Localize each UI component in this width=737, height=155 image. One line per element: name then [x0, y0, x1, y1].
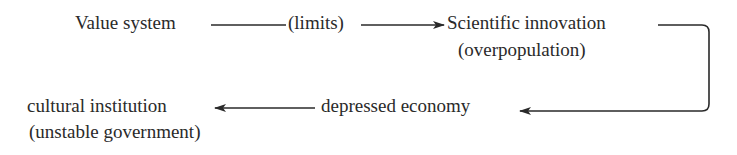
diagram-connectors	[0, 0, 737, 155]
edge-scientific-innovation-to-depressed-economy	[520, 25, 709, 111]
